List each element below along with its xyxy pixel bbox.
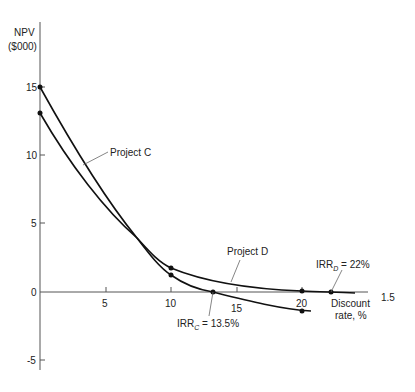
x-tick-label: 15	[231, 303, 243, 314]
irr-c-leader	[209, 292, 213, 316]
data-points	[38, 85, 334, 314]
project-c-curve	[40, 87, 311, 311]
project-d-label: Project D	[227, 246, 268, 257]
y-axis-label: NPV	[14, 27, 35, 38]
project-c-leader	[83, 152, 108, 165]
x-axis-label-line1: Discount	[331, 298, 370, 309]
x-tick-label: 20	[296, 298, 308, 309]
project-c-label: Project C	[110, 147, 151, 158]
y-axis-unit: ($000)	[8, 41, 37, 52]
y-tick-label: 10	[26, 150, 38, 161]
project-d-leader	[231, 260, 240, 282]
project-d-curve	[40, 113, 355, 293]
x-axis-label-line2: rate, %	[335, 310, 367, 321]
y-tick-label: 5	[31, 218, 37, 229]
x-tick-label: 5	[102, 298, 108, 309]
y-tick-label: -5	[27, 355, 36, 366]
irr-d-leader	[331, 270, 342, 292]
y-tick-label: 0	[31, 287, 37, 298]
npv-profile-chart: NPV ($000) 15 10 5 0 -5 5 10 15 20 Disco…	[0, 0, 415, 392]
irr-c-annotation: IRRC = 13.5%	[177, 318, 239, 331]
irr-d-annotation: IRRD = 22%	[316, 259, 370, 272]
x-tick-label: 10	[165, 298, 177, 309]
y-tick-label: 15	[26, 82, 38, 93]
stray-axis-label: 1.5	[381, 292, 395, 303]
y-ticks: 15 10 5 0 -5	[26, 82, 45, 366]
